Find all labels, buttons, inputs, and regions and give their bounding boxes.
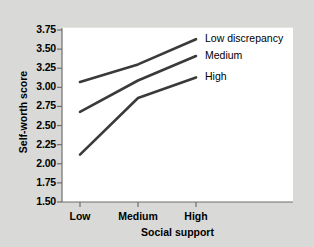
axes	[62, 28, 293, 202]
series-label-high: High	[205, 70, 227, 82]
series-line	[80, 77, 196, 154]
x-axis-tick-label: Medium	[108, 210, 168, 222]
y-axis-tick-label: 1.75	[22, 176, 56, 188]
series-label-medium: Medium	[205, 49, 242, 61]
y-axis-tick-label: 1.50	[22, 195, 56, 207]
series-line	[80, 39, 196, 82]
x-axis-title: Social support	[62, 226, 293, 238]
y-axis-tick-label: 3.75	[22, 23, 56, 35]
series-label-low-discrepancy: Low discrepancy	[205, 32, 283, 44]
y-axis-title: Self-worth score	[17, 52, 29, 172]
chart-figure: 1.501.752.002.252.502.753.003.253.503.75…	[0, 0, 314, 247]
series-lines	[80, 39, 196, 154]
x-axis-ticks	[80, 202, 196, 207]
x-axis-tick-label: Low	[50, 210, 110, 222]
x-axis-tick-label: High	[166, 210, 226, 222]
y-axis-ticks	[57, 30, 62, 202]
